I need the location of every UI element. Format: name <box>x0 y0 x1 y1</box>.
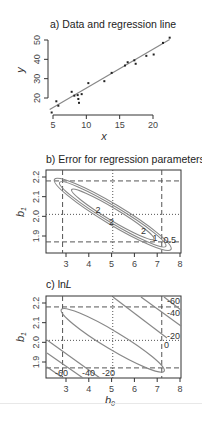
panel-a-scatter: a) Data and regression line y x 20304050… <box>14 18 176 142</box>
panel-c-xlabel: b0 <box>105 394 115 407</box>
panel-a-title: a) Data and regression line <box>50 18 176 30</box>
lnL-contour <box>113 297 167 338</box>
data-point <box>57 105 59 107</box>
data-point <box>133 59 135 61</box>
ytick-label: 2.1 <box>31 316 41 329</box>
contour-label: 2 <box>141 226 146 236</box>
data-point <box>103 80 105 82</box>
data-point <box>145 55 147 57</box>
bottom-divider <box>0 403 202 404</box>
contour-label: 2 <box>95 205 100 215</box>
a-ytick-label: 50 <box>32 35 42 45</box>
xtick-label: 8 <box>177 259 182 269</box>
panel-a-xlabel: x <box>100 130 107 142</box>
data-point <box>78 102 80 104</box>
data-point <box>135 63 137 65</box>
data-point <box>153 54 155 56</box>
contour-label-bottom: -60 <box>55 368 68 378</box>
ytick-label: 1.9 <box>31 356 41 369</box>
ytick-label: 1.9 <box>31 230 41 243</box>
data-point <box>77 94 79 96</box>
data-point <box>51 112 53 114</box>
data-point <box>127 61 129 63</box>
xtick-label: 6 <box>132 384 137 394</box>
panel-c-title: c) lnL <box>46 278 72 290</box>
a-xtick-label: 15 <box>115 120 125 130</box>
contour-label-bottom: -40 <box>82 368 95 378</box>
data-point <box>162 42 164 44</box>
xtick-label: 3 <box>63 384 68 394</box>
contour-label: 2 <box>109 217 114 227</box>
data-point <box>81 93 83 95</box>
contour-label-right: -40 <box>167 308 180 318</box>
data-point <box>124 65 126 67</box>
xtick-label: 4 <box>86 384 91 394</box>
xtick-label: 5 <box>109 259 114 269</box>
ytick-label: 2.2 <box>31 171 41 184</box>
data-point <box>73 95 75 97</box>
ytick-label: 2.2 <box>31 297 41 310</box>
xtick-label: 7 <box>155 384 160 394</box>
xtick-label: 4 <box>86 259 91 269</box>
xtick-label: 5 <box>109 384 114 394</box>
panel-a-ylabel: y <box>14 66 26 74</box>
data-point <box>71 91 73 93</box>
contour-label-bottom: -20 <box>102 368 115 378</box>
data-point <box>87 82 89 84</box>
contour-label: 1 <box>152 233 157 243</box>
xtick-label: 6 <box>132 259 137 269</box>
a-xtick-label: 5 <box>50 120 55 130</box>
a-xtick-label: 10 <box>81 120 91 130</box>
panel-b-contour: b) Error for regression parameters b1 34… <box>14 153 202 269</box>
xtick-label: 8 <box>177 384 182 394</box>
a-xtick-label: 20 <box>148 120 158 130</box>
contour-label: 0 <box>164 340 169 350</box>
panel-c-contour: c) lnL b1 b0 3456781.92.02.12.2 0-60-40-… <box>14 278 183 407</box>
data-point <box>55 100 57 102</box>
data-point <box>77 98 79 100</box>
figure: a) Data and regression line y x 20304050… <box>0 0 202 424</box>
contour-label-right: -20 <box>167 331 180 341</box>
regression-line <box>50 39 170 109</box>
data-point <box>169 37 171 39</box>
a-ytick-label: 20 <box>32 93 42 103</box>
xtick-label: 3 <box>63 259 68 269</box>
a-ytick-label: 30 <box>32 74 42 84</box>
contour-label: 0.5 <box>163 235 176 245</box>
panel-b-title: b) Error for regression parameters <box>46 153 202 165</box>
ytick-label: 2.0 <box>31 336 41 349</box>
a-ytick-label: 40 <box>32 54 42 64</box>
xtick-label: 7 <box>155 259 160 269</box>
panel-c-ylabel: b1 <box>14 332 27 342</box>
ytick-label: 2.0 <box>31 210 41 223</box>
data-point <box>111 72 113 74</box>
panel-b-ylabel: b1 <box>14 207 27 217</box>
contour-label-right: -60 <box>167 296 180 306</box>
ytick-label: 2.1 <box>31 190 41 203</box>
